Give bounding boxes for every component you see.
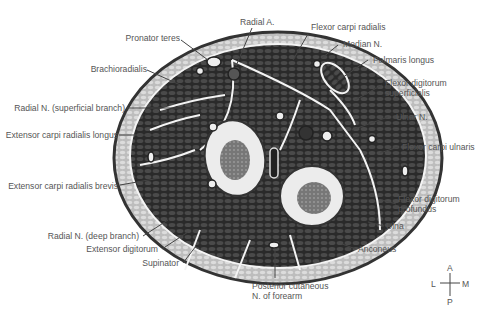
compass-medial: M	[462, 279, 469, 289]
label-radial-a: Radial A.	[240, 17, 274, 27]
compass-anterior: A	[447, 263, 453, 273]
cross-section-illustration	[0, 0, 480, 321]
label-pronator-teres: Pronator teres	[126, 33, 180, 43]
label-radial-n-deep: Radial N. (deep branch)	[48, 231, 139, 241]
label-posterior-cutaneous-line2: N. of forearm	[252, 291, 302, 301]
label-palmaris-longus: Palmaris longus	[373, 55, 434, 65]
label-fdp-line1: Flexor digitorum	[398, 194, 460, 204]
label-median-n: Median N.	[343, 39, 382, 49]
label-supinator: Supinator	[142, 258, 179, 268]
label-fds-line1: Flexor digitorum	[385, 78, 447, 88]
label-extensor-digitorum: Extensor digitorum	[86, 244, 158, 254]
forearm-cross-section-figure: Pronator teres Brachioradialis Radial N.…	[0, 0, 480, 321]
label-flexor-carpi-radialis: Flexor carpi radialis	[311, 22, 386, 32]
label-radial-n-superficial: Radial N. (superficial branch)	[14, 103, 125, 113]
label-flexor-carpi-ulnaris: Flexor carpi ulnaris	[402, 142, 475, 152]
label-anconeus: Anconeus	[358, 244, 396, 254]
orientation-compass	[440, 273, 460, 296]
label-ulnar-n: Ulnar N.	[396, 112, 428, 122]
label-posterior-cutaneous-line1: Posterior cutaneous	[252, 281, 328, 291]
label-brachioradialis: Brachioradialis	[91, 64, 147, 74]
label-ecr-longus: Extensor carpi radialis longus	[6, 130, 118, 140]
label-ulna: Ulna	[386, 221, 404, 231]
compass-posterior: P	[447, 297, 453, 307]
label-fds-line2: superficialis	[385, 88, 430, 98]
label-ecr-brevis: Extensor carpi radialis brevis	[8, 181, 118, 191]
label-fdp-line2: profundus	[398, 204, 436, 214]
compass-lateral: L	[431, 279, 436, 289]
